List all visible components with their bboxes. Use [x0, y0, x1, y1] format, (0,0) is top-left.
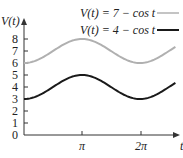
svg-text:4: 4 [12, 80, 18, 94]
svg-text:3: 3 [12, 92, 18, 106]
x-axis-label: t [180, 139, 183, 153]
y-ticks [24, 39, 28, 123]
svg-text:1: 1 [12, 116, 18, 130]
y-axis-arrow-icon [21, 18, 27, 25]
svg-text:0: 0 [12, 128, 18, 142]
svg-text:8: 8 [12, 32, 18, 46]
legend-label-1: V(t) = 7 − cos t [80, 6, 156, 20]
chart: 0 1 2 3 4 5 6 7 8 π 2π t V(t) V(t) = 7 −… [0, 0, 183, 158]
x-axis-arrow-icon [173, 132, 180, 138]
legend-label-2: V(t) = 4 − cos t [80, 23, 156, 37]
svg-text:6: 6 [12, 56, 18, 70]
svg-text:5: 5 [12, 68, 18, 82]
svg-text:2: 2 [12, 104, 18, 118]
x-tick-label-2pi: 2π [135, 139, 148, 153]
y-tick-labels: 0 1 2 3 4 5 6 7 8 [12, 32, 18, 142]
series-4-minus-cos [24, 75, 175, 99]
y-axis-label: V(t) [1, 14, 20, 28]
legend: V(t) = 7 − cos t V(t) = 4 − cos t [80, 6, 179, 37]
svg-text:7: 7 [12, 44, 18, 58]
x-tick-label-pi: π [79, 139, 86, 153]
series-7-minus-cos [24, 39, 175, 63]
